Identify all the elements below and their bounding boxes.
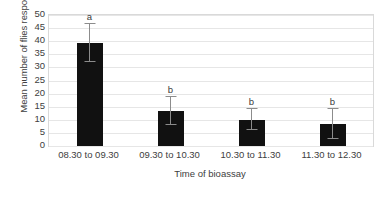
y-axis-tick-labels: 05101520253035404550 [24, 14, 45, 145]
significance-label: b [168, 85, 173, 95]
error-bar-line [170, 96, 171, 125]
error-bar-cap-top [246, 108, 257, 109]
error-bar-cap-bottom [327, 138, 338, 139]
bar-group: b [130, 15, 211, 146]
y-tick-label: 35 [24, 49, 45, 59]
error-bar-cap-bottom [246, 129, 257, 130]
y-tick-label: 45 [24, 22, 45, 32]
y-tick-label: 15 [24, 101, 45, 111]
plot-area: abbb [48, 14, 374, 147]
significance-label: a [87, 12, 92, 22]
y-tick-label: 10 [24, 114, 45, 124]
bar-group: a [49, 15, 130, 146]
gridline [49, 146, 373, 147]
bar-group: b [292, 15, 373, 146]
error-bar-line [89, 23, 90, 62]
error-bar-cap-bottom [165, 124, 176, 125]
error-bar-cap-top [165, 96, 176, 97]
error-bar [246, 108, 257, 130]
y-tick-label: 30 [24, 62, 45, 72]
y-tick-label: 50 [24, 9, 45, 19]
error-bar-line [332, 108, 333, 139]
x-axis-tick-labels: 08.30 to 09.3009.30 to 10.3010.30 to 11.… [48, 149, 372, 163]
x-tick-label: 10.30 to 11.30 [220, 149, 280, 161]
y-tick-label: 25 [24, 75, 45, 85]
error-bar-cap-bottom [84, 61, 95, 62]
significance-label: b [330, 97, 335, 107]
y-tick-label: 40 [24, 35, 45, 45]
error-bar [327, 108, 338, 139]
x-axis-title: Time of bioassay [48, 168, 372, 179]
x-tick-label: 08.30 to 09.30 [58, 149, 119, 161]
bar-series: abbb [49, 15, 373, 146]
error-bar-line [251, 108, 252, 130]
error-bar-cap-top [327, 108, 338, 109]
y-tick-label: 0 [24, 140, 45, 150]
error-bar-cap-top [84, 23, 95, 24]
y-tick-label: 5 [24, 127, 45, 137]
error-bar [84, 23, 95, 62]
bar-chart-figure: Mean number of flies responding 05101520… [0, 0, 377, 199]
error-bar [165, 96, 176, 125]
x-tick-label: 09.30 to 10.30 [139, 149, 200, 161]
bar-group: b [211, 15, 292, 146]
significance-label: b [249, 97, 254, 107]
x-tick-label: 11.30 to 12.30 [301, 149, 361, 161]
y-tick-label: 20 [24, 88, 45, 98]
